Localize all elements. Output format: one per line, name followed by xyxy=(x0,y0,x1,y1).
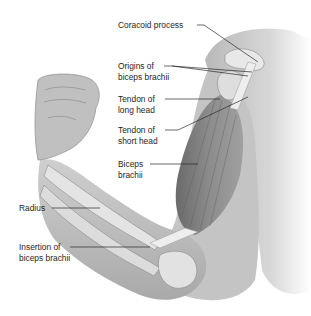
label-line: biceps brachii xyxy=(19,253,70,264)
label-tendon-of-long-head: Tendon of long head xyxy=(118,94,155,115)
label-biceps-brachii: Biceps brachii xyxy=(118,159,143,180)
label-line: Coracoid process xyxy=(118,20,183,31)
label-line: short head xyxy=(118,136,158,147)
label-line: Origins of xyxy=(118,61,169,72)
label-line: Tendon of xyxy=(118,125,158,136)
label-insertion-of-biceps-brachii: Insertion of biceps brachii xyxy=(19,242,70,263)
label-line: brachii xyxy=(118,170,143,181)
label-line: long head xyxy=(118,105,155,116)
label-radius: Radius xyxy=(19,203,45,214)
label-line: Radius xyxy=(19,203,45,214)
arm-illustration xyxy=(0,0,311,316)
label-line: Insertion of xyxy=(19,242,70,253)
label-line: Biceps xyxy=(118,159,143,170)
anatomy-diagram: Coracoid process Origins of biceps brach… xyxy=(0,0,311,316)
label-line: biceps brachii xyxy=(118,72,169,83)
label-line: Tendon of xyxy=(118,94,155,105)
label-tendon-of-short-head: Tendon of short head xyxy=(118,125,158,146)
label-coracoid-process: Coracoid process xyxy=(118,20,183,31)
label-origins-of-biceps-brachii: Origins of biceps brachii xyxy=(118,61,169,82)
